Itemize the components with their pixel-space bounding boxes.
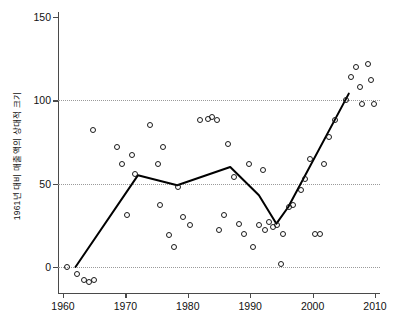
x-tick-1990 [250, 293, 251, 298]
data-point [180, 214, 186, 220]
data-point [90, 127, 96, 133]
data-point [166, 232, 172, 238]
data-point [119, 161, 125, 167]
data-point [225, 141, 231, 147]
data-point [359, 101, 365, 107]
data-point [171, 244, 177, 250]
data-point [274, 222, 280, 228]
y-tick-label-0: 0 [45, 261, 51, 273]
data-point [348, 74, 354, 80]
data-point [197, 117, 203, 123]
data-point [371, 101, 377, 107]
data-point [236, 221, 242, 227]
x-tick-label-1970: 1970 [114, 300, 137, 312]
data-point [260, 167, 266, 173]
data-point [302, 176, 308, 182]
x-tick-label-2000: 2000 [301, 300, 324, 312]
data-point [216, 227, 222, 233]
data-point [250, 244, 256, 250]
data-point [256, 222, 262, 228]
y-tick-label-100: 100 [33, 94, 51, 106]
data-point [132, 171, 138, 177]
x-tick-1960 [63, 293, 64, 298]
data-point [353, 64, 359, 70]
data-point [241, 231, 247, 237]
data-point [343, 97, 349, 103]
data-point [124, 212, 130, 218]
x-tick-2010 [375, 293, 376, 298]
data-point [307, 156, 313, 162]
data-point [317, 231, 323, 237]
data-point [175, 184, 181, 190]
data-point [357, 84, 363, 90]
y-tick-label-150: 150 [33, 11, 51, 23]
data-point [147, 122, 153, 128]
data-point [298, 187, 304, 193]
y-tick-label-50: 50 [39, 178, 51, 190]
trend-line [58, 12, 380, 293]
x-tick-2000 [313, 293, 314, 298]
data-point [114, 144, 120, 150]
data-point [187, 222, 193, 228]
chart-container: 1961년 대비 매출액의 상대적 크기 050100150 196019701… [0, 0, 396, 328]
data-point [246, 161, 252, 167]
x-tick-label-1960: 1960 [51, 300, 74, 312]
x-tick-1980 [188, 293, 189, 298]
data-point [157, 202, 163, 208]
data-point [332, 117, 338, 123]
data-point [368, 77, 374, 83]
data-point [231, 174, 237, 180]
x-tick-label-1990: 1990 [239, 300, 262, 312]
data-point [91, 277, 97, 283]
data-point [214, 117, 220, 123]
data-point [262, 227, 268, 233]
x-tick-1970 [125, 293, 126, 298]
y-axis-title: 1961년 대비 매출액의 상대적 크기 [10, 36, 22, 276]
x-tick-label-2010: 2010 [363, 300, 386, 312]
data-point [321, 161, 327, 167]
data-point [365, 61, 371, 67]
x-axis-line [58, 293, 380, 294]
data-point [129, 152, 135, 158]
data-point [221, 212, 227, 218]
data-point [278, 261, 284, 267]
data-point [155, 161, 161, 167]
data-point [64, 264, 70, 270]
x-tick-label-1980: 1980 [176, 300, 199, 312]
data-point [290, 202, 296, 208]
plot-area: 050100150 196019701980199020002010 [58, 12, 380, 293]
data-point [326, 134, 332, 140]
data-point [74, 271, 80, 277]
data-point [160, 144, 166, 150]
data-point [280, 231, 286, 237]
